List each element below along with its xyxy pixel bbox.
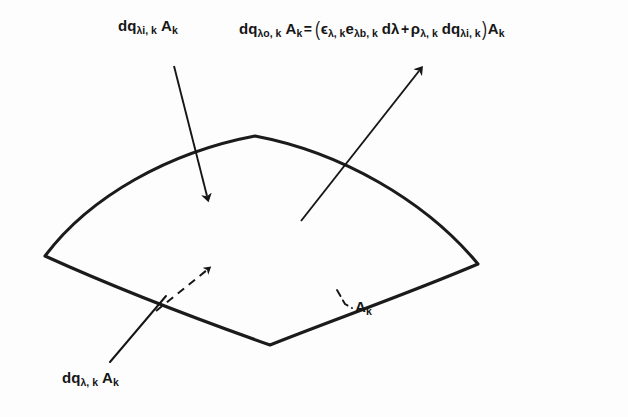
- net-flux-leader-line: [110, 296, 166, 362]
- surface-area-label: Ak: [355, 299, 372, 317]
- surface-patch-diagram: [0, 0, 628, 417]
- surface-patch-outline: [45, 136, 478, 345]
- incident-flux-label: dqλi, kAk: [118, 18, 178, 36]
- outgoing-flux-arrow: [301, 71, 419, 221]
- incident-flux-arrow: [174, 66, 207, 196]
- area-label-leader-line: [337, 290, 352, 308]
- outgoing-flux-equation-label: dqλo, kAk=(ϵλ, keλb, kdλ+ρλ, kdqλi, k)Ak: [239, 18, 505, 39]
- net-flux-label: dqλ, kAk: [62, 370, 119, 388]
- diagram-canvas: dqλi, kAk dqλo, kAk=(ϵλ, keλb, kdλ+ρλ, k…: [0, 0, 628, 417]
